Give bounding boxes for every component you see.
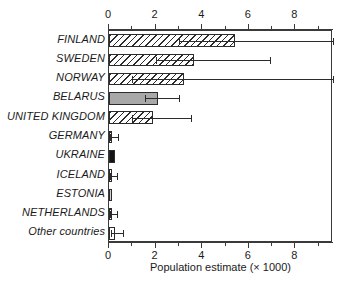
axis-minor-tick (178, 243, 179, 246)
category-axis-labels: FINLANDSWEDENNORWAYBELARUSUNITED KINGDOM… (0, 30, 105, 242)
category-label: NORWAY (1, 71, 105, 83)
bar-row (109, 92, 331, 105)
axis-tick-label: 8 (279, 249, 309, 261)
axis-major-tick (201, 243, 202, 248)
error-bar-cap (117, 211, 118, 218)
axis-tick-label: 8 (279, 8, 309, 20)
error-bar-line (110, 176, 117, 177)
category-label: UNITED KINGDOM (1, 110, 105, 122)
error-bar-cap (118, 134, 119, 141)
error-bar-cap (110, 173, 111, 180)
category-label: Other countries (1, 225, 105, 237)
bar (109, 189, 112, 202)
bar-row (109, 111, 331, 124)
axis-major-tick (108, 243, 109, 248)
error-bar-cap (191, 115, 192, 122)
axis-tick-label: 0 (93, 8, 123, 20)
category-label: SWEDEN (1, 52, 105, 64)
error-bar-line (132, 79, 332, 80)
axis-major-tick (248, 24, 249, 29)
error-bar-cap (110, 211, 111, 218)
axis-major-tick (155, 243, 156, 248)
category-label: UKRAINE (1, 148, 105, 160)
bar-row (109, 189, 331, 202)
x-axis-title: Population estimate (× 1000) (108, 261, 333, 273)
category-label: GERMANY (1, 129, 105, 141)
axis-tick-label: 2 (140, 8, 170, 20)
bar-row (109, 208, 331, 221)
bar (109, 150, 115, 163)
error-bar-cap (156, 57, 157, 64)
bar-row (109, 227, 331, 240)
bar-row (109, 34, 331, 47)
population-estimate-bar-chart: 02468 FINLANDSWEDENNORWAYBELARUSUNITED K… (0, 0, 354, 288)
axis-tick-label: 2 (140, 249, 170, 261)
error-bar-cap (132, 115, 133, 122)
axis-minor-tick (318, 26, 319, 29)
axis-minor-tick (271, 26, 272, 29)
axis-tick-label: 4 (186, 8, 216, 20)
axis-tick-label: 6 (233, 249, 263, 261)
error-bar-cap (132, 76, 133, 83)
error-bar-cap (333, 76, 334, 83)
axis-tick-label: 4 (186, 249, 216, 261)
bar-row (109, 150, 331, 163)
bar-row (109, 54, 331, 67)
bar-row (109, 169, 331, 182)
axis-major-tick (294, 24, 295, 29)
error-bar-line (145, 98, 179, 99)
bottom-axis-line (108, 242, 333, 243)
axis-major-tick (248, 243, 249, 248)
axis-major-tick (201, 24, 202, 29)
error-bar-line (111, 233, 123, 234)
error-bar-cap (111, 230, 112, 237)
axis-minor-tick (225, 243, 226, 246)
plot-area (108, 30, 332, 242)
category-label: BELARUS (1, 90, 105, 102)
category-label: ESTONIA (1, 187, 105, 199)
bar-row (109, 73, 331, 86)
axis-major-tick (294, 243, 295, 248)
axis-minor-tick (178, 26, 179, 29)
error-bar-line (110, 137, 118, 138)
axis-minor-tick (225, 26, 226, 29)
error-bar-cap (179, 38, 180, 45)
axis-tick-label: 6 (233, 8, 263, 20)
error-bar-line (156, 60, 270, 61)
bar-row (109, 131, 331, 144)
error-bar-cap (179, 95, 180, 102)
error-bar-cap (270, 57, 271, 64)
error-bar-line (179, 41, 333, 42)
error-bar-cap (110, 134, 111, 141)
axis-minor-tick (131, 243, 132, 246)
axis-minor-tick (318, 243, 319, 246)
error-bar-cap (145, 95, 146, 102)
error-bar-cap (123, 230, 124, 237)
category-label: NETHERLANDS (1, 206, 105, 218)
axis-major-tick (108, 24, 109, 29)
axis-minor-tick (271, 243, 272, 246)
axis-major-tick (155, 24, 156, 29)
error-bar-line (132, 118, 190, 119)
error-bar-line (110, 214, 117, 215)
category-label: FINLAND (1, 33, 105, 45)
error-bar-cap (117, 173, 118, 180)
category-label: ICELAND (1, 168, 105, 180)
axis-minor-tick (131, 26, 132, 29)
error-bar-cap (333, 38, 334, 45)
axis-tick-label: 0 (93, 249, 123, 261)
